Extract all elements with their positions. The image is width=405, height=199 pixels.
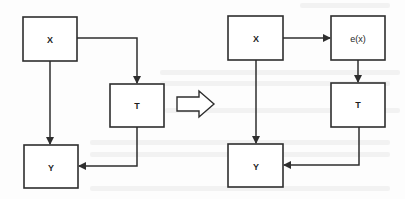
node-label: Y (253, 162, 259, 172)
edge-x-to-t (77, 38, 137, 83)
node-label: T (134, 101, 140, 111)
node-x: X (23, 17, 77, 61)
node-t: T (110, 84, 164, 127)
edge-t-to-y (284, 127, 359, 165)
transform-arrow-icon (177, 91, 214, 117)
node-x: X (228, 16, 283, 60)
right-diagram: X e(x) T Y (228, 16, 385, 187)
node-label: e(x) (350, 34, 366, 44)
edge-t-to-y (79, 127, 137, 166)
node-t: T (331, 83, 385, 127)
node-label: X (253, 34, 259, 44)
node-ex: e(x) (331, 16, 385, 60)
left-diagram: X T Y (23, 17, 164, 188)
node-label: X (47, 35, 53, 45)
node-label: T (355, 100, 361, 110)
node-y: Y (228, 144, 283, 187)
node-label: Y (48, 163, 54, 173)
causal-diagram: X T Y X e(x) T (0, 0, 405, 199)
node-y: Y (24, 145, 78, 188)
